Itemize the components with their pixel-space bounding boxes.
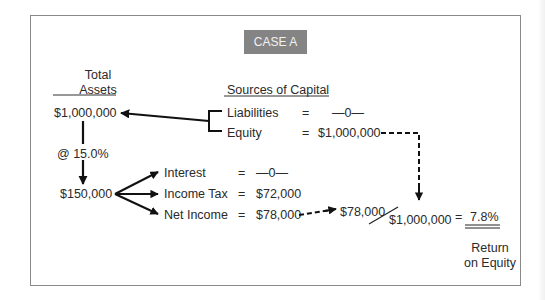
capital-to-assets-arrow <box>121 113 209 121</box>
connector-lines <box>0 0 545 300</box>
capital-bracket <box>209 111 222 131</box>
to-net-income-arrow <box>115 194 158 214</box>
net-income-to-numerator-arrow <box>325 209 336 211</box>
fraction-slash <box>369 207 398 224</box>
equity-dashed-line <box>381 133 419 190</box>
to-interest-arrow <box>115 172 158 194</box>
